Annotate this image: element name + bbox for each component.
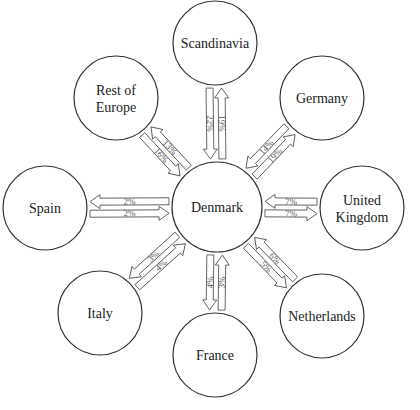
- flow-spain: 2%2%: [90, 194, 169, 220]
- node-label: Rest of: [96, 83, 136, 98]
- flow-scandinavia: 22%19%: [203, 88, 230, 159]
- node-italy: Italy: [58, 271, 142, 355]
- node-label: Scandinavia: [181, 36, 250, 51]
- trade-flow-diagram: 22%19%14%19%7%7%6%5%3%4%4%3%2%2%16%13%Sc…: [0, 0, 420, 410]
- node-label: Denmark: [191, 200, 243, 215]
- node-label: Europe: [96, 100, 136, 115]
- node-label: France: [196, 348, 234, 363]
- node-france: France: [173, 313, 257, 397]
- flow-italy: 4%3%: [125, 230, 191, 293]
- node-united-kingdom: UnitedKingdom: [320, 166, 404, 250]
- flow-germany: 14%19%: [241, 121, 300, 181]
- flow-in-label: 3%: [217, 276, 227, 289]
- node-label: Germany: [296, 91, 348, 106]
- flow-out-label: 19%: [217, 115, 227, 132]
- node-germany: Germany: [280, 56, 364, 140]
- flow-in-label: 22%: [205, 115, 215, 132]
- node-spain: Spain: [3, 166, 87, 250]
- flow-out-label: 2%: [123, 196, 136, 206]
- node-label: Netherlands: [288, 309, 356, 324]
- node-label: Kingdom: [336, 210, 389, 225]
- node-netherlands: Netherlands: [280, 274, 364, 358]
- node-rest-of-europe: Rest ofEurope: [74, 56, 158, 140]
- flow-netherlands: 6%5%: [241, 233, 300, 293]
- flow-out-label: 4%: [205, 276, 215, 289]
- flow-out-label: 7%: [285, 208, 298, 218]
- flow-rest-of-europe: 16%13%: [137, 122, 194, 180]
- node-label: Spain: [29, 201, 61, 216]
- node-denmark: Denmark: [172, 162, 262, 252]
- flow-united-kingdom: 7%7%: [265, 194, 317, 220]
- flow-in-label: 2%: [124, 208, 137, 218]
- flow-france: 3%4%: [203, 255, 230, 310]
- node-scandinavia: Scandinavia: [173, 1, 257, 85]
- flow-in-label: 7%: [285, 196, 298, 206]
- node-label: Italy: [87, 306, 113, 321]
- node-label: United: [343, 193, 381, 208]
